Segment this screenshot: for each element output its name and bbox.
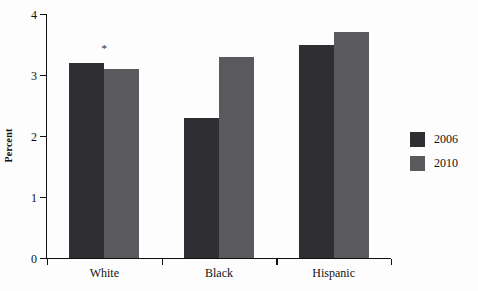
x-axis-label-white: White: [47, 267, 162, 279]
x-axis-tick: [47, 259, 48, 265]
y-axis-tick-label: 2: [31, 131, 37, 143]
y-axis-tick: 2: [40, 136, 46, 137]
x-axis-label-black: Black: [162, 267, 277, 279]
bar-hispanic-2010: [334, 32, 369, 258]
legend-swatch-2010: [410, 156, 425, 171]
bar-white-2006: [69, 63, 104, 258]
y-axis-tick: 1: [40, 197, 46, 198]
legend-swatch-2006: [410, 132, 425, 147]
bar-black-2010: [219, 57, 254, 258]
y-axis-tick-label: 3: [31, 70, 37, 82]
y-axis-tick: 4: [40, 14, 46, 15]
x-axis-tick: [162, 259, 163, 265]
legend-item-2010[interactable]: 2010: [410, 151, 458, 175]
y-axis-tick-label: 4: [31, 9, 37, 21]
significance-marker: *: [102, 43, 108, 54]
y-axis-tick-label: 1: [31, 192, 37, 204]
y-axis-tick: 3: [40, 75, 46, 76]
bar-hispanic-2006: [299, 45, 334, 259]
x-axis-label-hispanic: Hispanic: [276, 267, 391, 279]
legend: 20062010: [410, 127, 458, 175]
y-axis-label: Percent: [0, 0, 16, 291]
x-axis-tick: [276, 259, 277, 265]
plot-area: *: [47, 14, 391, 258]
legend-label-2006: 2006: [434, 133, 458, 145]
bar-chart-figure: Percent 01234 * WhiteBlackHispanic 20062…: [0, 0, 478, 291]
y-axis-tick: 0: [40, 258, 46, 259]
x-axis-line: [46, 258, 391, 259]
legend-label-2010: 2010: [434, 157, 458, 169]
bar-white-2010: [104, 69, 139, 258]
x-axis-tick: [391, 259, 392, 265]
bar-black-2006: [184, 118, 219, 258]
legend-item-2006[interactable]: 2006: [410, 127, 458, 151]
y-axis-tick-label: 0: [31, 253, 37, 265]
